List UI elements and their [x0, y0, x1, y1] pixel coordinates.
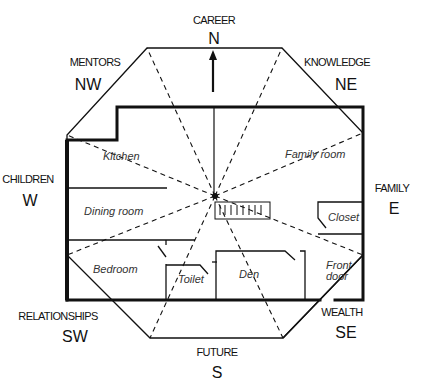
room-den: Den — [239, 268, 259, 280]
room-toilet: Toilet — [178, 273, 204, 285]
dir-ne: NE — [335, 76, 357, 94]
room-kitchen: Kitchen — [103, 150, 140, 162]
dir-nw: NW — [75, 76, 102, 94]
label-children: CHILDREN — [2, 173, 53, 185]
dir-e: E — [389, 200, 400, 218]
room-dining-room: Dining room — [84, 205, 143, 217]
dir-s: S — [212, 364, 223, 382]
dir-se: SE — [335, 324, 356, 342]
label-knowledge: KNOWLEDGE — [304, 56, 370, 68]
room-front-door: Front door — [326, 260, 356, 282]
label-relationships: RELATIONSHIPS — [18, 310, 97, 322]
room-family-room: Family room — [285, 148, 346, 160]
label-wealth: WEALTH — [321, 306, 362, 318]
label-family: FAMILY — [375, 182, 410, 194]
dir-n: N — [208, 30, 220, 48]
label-future: FUTURE — [196, 346, 237, 358]
dir-w: W — [22, 192, 37, 210]
dir-sw: SW — [62, 328, 88, 346]
label-career: CAREER — [193, 14, 235, 26]
label-mentors: MENTORS — [70, 56, 121, 68]
stairs-icon — [215, 202, 270, 219]
room-closet: Closet — [328, 211, 359, 223]
north-arrow-icon — [209, 50, 217, 92]
room-bedroom: Bedroom — [93, 263, 138, 275]
center-point-icon — [212, 193, 218, 199]
